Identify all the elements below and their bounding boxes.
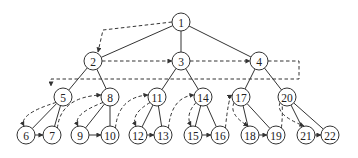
node-label: 4 [256,56,262,68]
traversal-arrow-14-15 [189,102,196,126]
tree-node-3: 3 [172,52,190,70]
node-label: 15 [187,130,199,142]
traversal-arrow-1-2 [98,22,172,52]
node-label: 13 [157,130,169,142]
node-label: 8 [107,92,113,104]
node-label: 14 [197,92,209,104]
node-label: 2 [90,56,96,68]
tree-edge-14-16 [207,105,217,127]
traversal-arrow-13-14 [168,95,194,128]
tree-node-18: 18 [241,126,259,144]
tree-edge-1-2 [101,26,173,58]
tree-node-4: 4 [250,52,268,70]
node-label: 19 [270,130,282,142]
tree-node-6: 6 [17,126,35,144]
tree-edge-11-12 [142,105,153,127]
tree-edge-14-15 [195,106,200,127]
node-label: 5 [60,92,66,104]
tree-node-21: 21 [297,126,315,144]
tree-edge-11-13 [158,106,161,126]
tree-node-15: 15 [184,126,202,144]
tree-node-10: 10 [101,126,119,144]
tree-edge-5-6 [32,103,56,128]
tree-node-22: 22 [321,126,339,144]
tree-edges [32,26,323,129]
tree-node-5: 5 [54,88,72,106]
tree-node-1: 1 [172,13,190,31]
node-label: 16 [214,130,226,142]
node-label: 7 [49,130,55,142]
tree-node-20: 20 [278,88,296,106]
node-label: 18 [244,130,256,142]
node-label: 11 [151,92,162,104]
traversal-arrow-5-6 [23,102,56,126]
tree-diagram: 12345811141720679101213151618192122 [0,0,358,158]
node-label: 3 [178,56,184,68]
tree-node-7: 7 [43,126,61,144]
traversal-arrows [23,22,321,135]
tree-node-17: 17 [232,88,250,106]
tree-node-12: 12 [129,126,147,144]
tree-node-13: 13 [154,126,172,144]
node-label: 21 [300,130,312,142]
tree-node-9: 9 [71,126,89,144]
tree-node-19: 19 [267,126,285,144]
node-label: 22 [324,130,336,142]
node-label: 6 [23,130,29,142]
tree-node-11: 11 [148,88,166,106]
node-label: 10 [104,130,116,142]
tree-node-16: 16 [211,126,229,144]
tree-node-8: 8 [101,88,119,106]
tree-edge-20-22 [294,103,324,129]
tree-edge-1-4 [189,26,251,57]
tree-edge-8-9 [86,104,105,128]
node-label: 1 [178,17,184,29]
node-label: 17 [235,92,247,104]
traversal-arrow-16-17 [225,95,232,128]
tree-edge-5-7 [55,106,61,127]
node-label: 9 [77,130,83,142]
tree-edge-17-19 [247,104,270,129]
node-label: 20 [281,92,293,104]
node-label: 12 [132,130,144,142]
tree-node-14: 14 [194,88,212,106]
tree-node-2: 2 [84,52,102,70]
traversal-arrow-10-11 [115,95,148,128]
